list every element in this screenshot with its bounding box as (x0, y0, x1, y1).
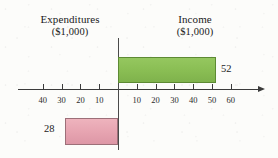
diverging-bar-chart: Expenditures ($1,000) Income ($1,000) 40… (0, 0, 278, 158)
expenditures-title-text: Expenditures (40, 13, 99, 25)
axis-tick (62, 84, 63, 90)
axis-tick (80, 84, 81, 90)
axis-tick (174, 84, 175, 90)
zero-axis-line (118, 38, 119, 150)
income-title-text: Income (178, 13, 212, 25)
axis-tick (137, 84, 138, 90)
expenditures-column-title: Expenditures ($1,000) (20, 13, 120, 38)
expenditures-unit-text: ($1,000) (20, 26, 120, 38)
axis-tick (99, 84, 100, 90)
axis-tick (43, 84, 44, 90)
horizontal-axis-line (18, 89, 262, 90)
axis-tick-label: 10 (87, 95, 111, 105)
axis-tick (212, 84, 213, 90)
axis-tick (231, 84, 232, 90)
expenditures-bar-value-label: 28 (44, 123, 55, 134)
axis-tick (156, 84, 157, 90)
axis-tick (193, 84, 194, 90)
expenditures-bar (65, 118, 118, 145)
axis-arrowhead-icon (258, 86, 265, 92)
income-unit-text: ($1,000) (145, 26, 245, 38)
income-bar-value-label: 52 (221, 63, 232, 74)
income-bar (118, 57, 216, 83)
axis-tick-label: 60 (219, 95, 243, 105)
income-column-title: Income ($1,000) (145, 13, 245, 38)
